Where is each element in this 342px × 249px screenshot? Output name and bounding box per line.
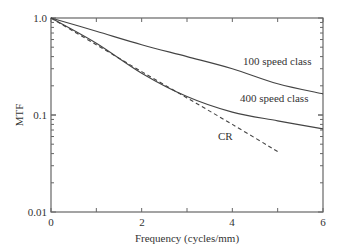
plot-area (51, 18, 323, 212)
series-label-cr: CR (218, 130, 233, 142)
y-axis-label: MTF (13, 104, 25, 127)
series-label-100-speed: 100 speed class (243, 55, 311, 67)
series-line-cr (51, 18, 278, 152)
series-lines (51, 18, 323, 152)
x-tick-label: 0 (48, 216, 54, 228)
series-label-400-speed: 400 speed class (240, 92, 308, 104)
plot-border (51, 18, 323, 212)
y-tick-label: 0.1 (33, 109, 47, 121)
x-axis-label: Frequency (cycles/mm) (135, 232, 239, 245)
y-axis-ticks (51, 18, 323, 212)
mtf-chart: 0 2 4 6 0.01 0.1 1.0 Frequency (cycles/m… (0, 0, 342, 249)
x-axis-ticks (51, 18, 323, 212)
y-tick-label: 1.0 (33, 12, 47, 24)
x-tick-label: 6 (320, 216, 326, 228)
x-tick-label: 2 (139, 216, 145, 228)
x-tick-label: 4 (229, 216, 235, 228)
series-line-400-speed-class (51, 18, 323, 129)
y-tick-label: 0.01 (28, 206, 47, 218)
